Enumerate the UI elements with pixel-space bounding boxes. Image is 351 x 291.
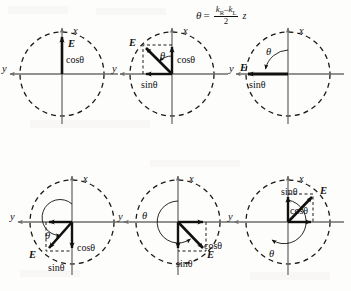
panel-5-cos-label: cosθ [204,240,222,251]
panel-3 [236,28,344,124]
panel-4-y-label: y [10,211,15,222]
panel-2-x-label: x [183,25,188,36]
panel-1-cos-label: cosθ [66,54,84,65]
panel-5-x-label: x [189,173,194,184]
formula-sub-l: L [232,9,236,16]
panel-2-y-label: y [112,63,117,74]
panel-4 [18,176,128,275]
panel-1-e-label: E [68,38,75,49]
panel-3-e-label: E [240,62,247,73]
panel-6-e-label: E [320,185,327,196]
panel-4-x-label: x [83,173,88,184]
formula-denominator: 2 [224,17,229,26]
formula-fraction: kR–kL 2 [214,5,239,26]
panel-2-theta-label: θ [160,50,165,61]
formula-z: z [242,11,246,21]
e-vector [178,222,203,248]
panel-2 [120,28,228,124]
panel-1-y-label: y [2,63,7,74]
panel-6-sin-label: sinθ [281,186,297,197]
theta-formula: θ = kR–kL 2 z [196,5,246,26]
panel-3-sin-label: sinθ [249,79,265,90]
panel-4-sin-label: sinθ [48,262,64,273]
panel-5-theta-label: θ [142,210,147,221]
panel-2-e-label: E [129,37,136,48]
panel-1-x-label: x [73,25,78,36]
panel-3-x-label: x [299,25,304,36]
formula-equals: = [203,10,209,21]
e-vector [49,222,72,248]
panel-2-cos-label: cosθ [177,54,195,65]
panel-6-theta-label: θ [269,248,274,259]
panel-4-cos-label: cosθ [77,242,95,253]
panel-6-x-label: x [299,173,304,184]
panel-3-y-label: y [229,63,234,74]
panel-6-y-label: y [228,211,233,222]
panel-1 [10,28,118,124]
panel-6-cos-label: cosθ [290,205,308,216]
panel-5-y-label: y [118,211,123,222]
panel-3-theta-label: θ [266,46,271,57]
panel-2-sin-label: sinθ [141,79,157,90]
formula-theta: θ [196,10,201,21]
polarization-rotation-figure [0,0,351,291]
panel-4-theta-label: θ [45,230,50,241]
panel-5-sin-label: sinθ [176,258,192,269]
panel-4-e-label: E [29,249,36,260]
